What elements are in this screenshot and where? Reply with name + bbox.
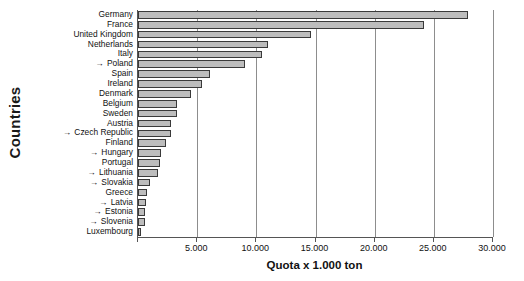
arrow-marker-icon: →	[93, 206, 105, 216]
category-label-text: Sweden	[103, 108, 133, 118]
gridline-30000	[493, 10, 494, 237]
category-label-text: Poland	[107, 58, 133, 68]
x-tick-label-30000: 30.000	[462, 243, 522, 253]
x-axis-title: Quota x 1.000 ton	[137, 259, 492, 271]
y-axis-title-text: Countries	[7, 87, 24, 159]
category-label-text: Hungary	[101, 147, 133, 157]
bar-italy	[138, 51, 262, 59]
x-tick-label-10000: 10.000	[225, 243, 285, 253]
bar-row	[138, 79, 493, 89]
x-tick-label-15000: 15.000	[285, 243, 345, 253]
bar-row	[138, 178, 493, 188]
bar-sweden	[138, 110, 177, 118]
bar-row	[138, 20, 493, 30]
bar-row	[138, 158, 493, 168]
bar-germany	[138, 11, 468, 19]
category-label-text: Italy	[118, 48, 133, 58]
bar-lithuania	[138, 169, 158, 177]
category-axis-labels: GermanyFranceUnited KingdomNetherlandsIt…	[24, 10, 135, 237]
category-label-luxembourg: Luxembourg	[86, 227, 133, 237]
bar-row	[138, 148, 493, 158]
category-label-text: Lithuania	[99, 167, 133, 177]
bar-denmark	[138, 90, 191, 98]
category-label-text: Luxembourg	[86, 226, 133, 236]
bar-chart-figure: Countries GermanyFranceUnited KingdomNet…	[0, 0, 524, 281]
category-label-text: Ireland	[107, 78, 133, 88]
arrow-marker-icon: →	[89, 216, 101, 226]
bar-hungary	[138, 149, 161, 157]
bar-row	[138, 89, 493, 99]
category-label-text: Slovenia	[101, 216, 133, 226]
category-label-text: Netherlands	[88, 39, 133, 49]
bar-row	[138, 217, 493, 227]
arrow-marker-icon: →	[63, 127, 75, 137]
bar-united-kingdom	[138, 31, 311, 39]
category-label-text: Slovakia	[101, 177, 133, 187]
bar-greece	[138, 189, 147, 197]
category-label-text: Estonia	[105, 206, 133, 216]
bar-row	[138, 227, 493, 237]
arrow-marker-icon: →	[87, 167, 99, 177]
category-label-text: Austria	[107, 118, 133, 128]
category-label-text: Denmark	[99, 88, 133, 98]
bar-row	[138, 40, 493, 50]
category-label-text: Spain	[112, 68, 133, 78]
bar-row	[138, 59, 493, 69]
bar-portugal	[138, 159, 160, 167]
x-tick-label-5000: 5.000	[166, 243, 226, 253]
arrow-marker-icon: →	[99, 197, 111, 207]
arrow-marker-icon: →	[90, 177, 102, 187]
category-label-text: United Kingdom	[73, 29, 133, 39]
bar-row	[138, 30, 493, 40]
bar-spain	[138, 70, 210, 78]
x-tick-mark-15000	[315, 238, 316, 242]
x-tick-label-25000: 25.000	[403, 243, 463, 253]
bar-france	[138, 21, 424, 29]
category-label-text: Finland	[106, 137, 133, 147]
x-tick-mark-10000	[255, 238, 256, 242]
category-label-text: Germany	[99, 9, 133, 19]
bar-row	[138, 128, 493, 138]
category-label-text: Latvia	[111, 197, 133, 207]
category-label-text: Greece	[106, 187, 133, 197]
bar-row	[138, 49, 493, 59]
x-tick-mark-0	[137, 238, 138, 242]
arrow-marker-icon: →	[95, 58, 107, 68]
x-tick-mark-5000	[196, 238, 197, 242]
bar-row	[138, 198, 493, 208]
bar-ireland	[138, 80, 202, 88]
bar-row	[138, 69, 493, 79]
bar-czech-republic	[138, 130, 171, 138]
bar-poland	[138, 60, 245, 68]
bar-row	[138, 99, 493, 109]
plot-area	[137, 10, 493, 238]
arrow-marker-icon: →	[90, 147, 102, 157]
bar-austria	[138, 120, 171, 128]
bar-estonia	[138, 208, 145, 216]
bar-slovenia	[138, 218, 145, 226]
bar-belgium	[138, 100, 177, 108]
bar-row	[138, 119, 493, 129]
bar-slovakia	[138, 179, 150, 187]
bar-finland	[138, 139, 166, 147]
x-tick-mark-20000	[374, 238, 375, 242]
bar-row	[138, 168, 493, 178]
bar-row	[138, 207, 493, 217]
x-tick-label-20000: 20.000	[344, 243, 404, 253]
x-tick-mark-25000	[433, 238, 434, 242]
bar-row	[138, 109, 493, 119]
category-label-text: France	[107, 19, 133, 29]
category-label-text: Belgium	[103, 98, 133, 108]
bar-row	[138, 188, 493, 198]
category-label-text: Portugal	[102, 157, 133, 167]
x-tick-mark-30000	[492, 238, 493, 242]
bar-latvia	[138, 199, 146, 207]
bar-row	[138, 138, 493, 148]
bar-row	[138, 10, 493, 20]
bar-netherlands	[138, 41, 268, 49]
bar-luxembourg	[138, 228, 141, 236]
category-label-text: Czech Republic	[74, 127, 133, 137]
